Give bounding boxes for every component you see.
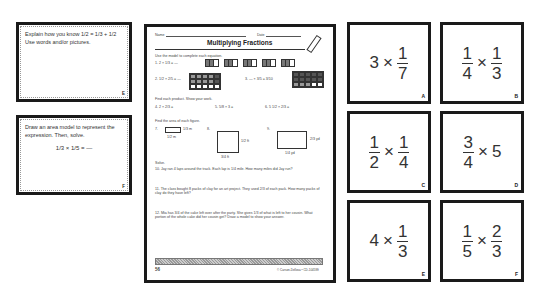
card-letter: A bbox=[421, 93, 425, 99]
card-letter: E bbox=[422, 271, 425, 277]
expression-card-d: 34 × 5 D bbox=[440, 111, 524, 193]
figure-9-height: 1/4 yd bbox=[285, 151, 295, 155]
figure-8-height: 3/4 ft bbox=[221, 155, 229, 159]
fraction: 23 bbox=[491, 223, 502, 260]
figure-8-width: 1/2 ft bbox=[241, 139, 249, 143]
expression-card-f: 15 × 23 F bbox=[440, 200, 524, 282]
expression-card-c: 12 × 14 C bbox=[347, 111, 431, 193]
question-5: 5. 5/8 × 3 = bbox=[215, 105, 233, 109]
section-instructions-2: Find each product. Show your work. bbox=[155, 97, 212, 101]
whole-number: 4 bbox=[370, 231, 379, 251]
task-card-explain: Explain how you know 1/2 = 1/3 + 1/2 Use… bbox=[16, 22, 132, 102]
pencil-icon bbox=[306, 35, 321, 53]
fraction: 13 bbox=[491, 45, 502, 82]
figure-8-rect bbox=[217, 131, 239, 153]
task-card-area-model: Draw an area model to represent the expr… bbox=[16, 115, 132, 195]
figure-9-width: 2/3 yd bbox=[310, 137, 320, 141]
task-card-expression: 1/3 × 1/5 = — bbox=[25, 145, 123, 151]
question-6: 6. 5 1/2 × 2/3 = bbox=[265, 105, 289, 109]
figure-9-rect bbox=[277, 131, 307, 149]
fraction: 14 bbox=[462, 45, 473, 82]
figure-7-height: 1/2 m bbox=[167, 135, 176, 139]
times-operator: × bbox=[384, 142, 394, 162]
fraction: 15 bbox=[462, 223, 473, 260]
fraction: 12 bbox=[369, 134, 380, 171]
question-4: 4. 2 × 2/3 = bbox=[155, 105, 173, 109]
card-letter: E bbox=[122, 91, 125, 96]
question-9: 9. bbox=[267, 127, 270, 131]
solve-label: Solve. bbox=[155, 161, 165, 165]
fraction: 14 bbox=[398, 134, 409, 171]
section-instructions-3: Find the area of each figure. bbox=[155, 119, 200, 123]
question-10: 10. Jay ran 4 laps around the track. Eac… bbox=[155, 167, 292, 171]
card-letter: C bbox=[421, 182, 425, 188]
fraction: 17 bbox=[397, 45, 408, 82]
figure-7-width: 1/3 m bbox=[183, 127, 192, 131]
task-card-text-2: Use words and/or pictures. bbox=[25, 38, 123, 46]
card-letter: B bbox=[514, 93, 518, 99]
times-operator: × bbox=[383, 231, 393, 251]
card-letter: D bbox=[514, 182, 518, 188]
card-letter: F bbox=[122, 184, 125, 189]
question-2: 2. 1/2 × 2/5 = — bbox=[155, 77, 181, 81]
footer-bar bbox=[155, 258, 323, 265]
worksheet-title: Multiplying Fractions bbox=[207, 39, 272, 46]
page-number: 56 bbox=[155, 267, 160, 272]
section-instructions-1: Use the model to complete each equation. bbox=[155, 54, 222, 58]
title-rule bbox=[155, 49, 305, 50]
question-11: 11. The class bought 8 packs of clay for… bbox=[155, 187, 320, 195]
question-1: 1. 2 × 1/3 = — bbox=[155, 61, 178, 65]
date-field: Date bbox=[257, 33, 301, 37]
expression-card-a: 3 × 17 A bbox=[347, 22, 431, 104]
fraction: 34 bbox=[463, 134, 474, 171]
question-7: 7. bbox=[155, 127, 158, 131]
card-letter: F bbox=[515, 271, 518, 277]
area-model-grid-3 bbox=[292, 71, 324, 88]
figure-7-rect bbox=[165, 127, 181, 133]
expression-card-b: 14 × 13 B bbox=[440, 22, 524, 104]
whole-number: 3 bbox=[370, 53, 379, 73]
copyright: © Carson-Dellosa • CD-104599 bbox=[277, 268, 319, 272]
question-12: 12. Mia has 3/4 of the cake left over af… bbox=[155, 211, 320, 219]
times-operator: × bbox=[383, 53, 393, 73]
task-card-text: Explain how you know 1/2 = 1/3 + 1/2 bbox=[25, 30, 123, 38]
times-operator: × bbox=[477, 53, 487, 73]
fraction: 13 bbox=[397, 223, 408, 260]
fraction-strips bbox=[205, 59, 300, 67]
times-operator: × bbox=[477, 231, 487, 251]
name-field: Name bbox=[155, 33, 246, 37]
whole-number: 5 bbox=[492, 142, 501, 162]
task-card-text: Draw an area model to represent the expr… bbox=[25, 123, 123, 139]
times-operator: × bbox=[478, 142, 488, 162]
worksheet-page: Name Date Multiplying Fractions Use the … bbox=[144, 24, 336, 283]
question-8: 8. bbox=[207, 127, 210, 131]
question-3: 3. — × 3/5 = 3/10 bbox=[245, 77, 273, 81]
area-model-grid-2 bbox=[189, 73, 221, 90]
expression-card-e: 4 × 13 E bbox=[347, 200, 431, 282]
